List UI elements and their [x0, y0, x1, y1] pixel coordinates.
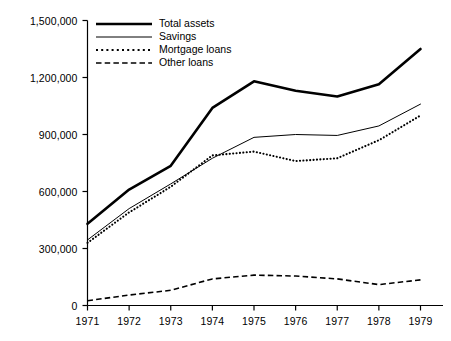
- legend-swatch-dashed: [96, 57, 152, 69]
- legend-label-total-assets: Total assets: [159, 17, 214, 30]
- y-axis-tick-label: 600,000: [0, 186, 78, 198]
- chart-legend: Total assets Savings Mortgage loans Othe…: [96, 17, 231, 69]
- y-axis-tick-label: 1,200,000: [0, 72, 78, 84]
- legend-swatch-solid-thick: [96, 18, 152, 30]
- legend-swatch-solid-thin: [96, 31, 152, 43]
- legend-label-other-loans: Other loans: [159, 56, 213, 69]
- legend-label-mortgage-loans: Mortgage loans: [159, 43, 231, 56]
- legend-item-mortgage-loans: Mortgage loans: [96, 43, 231, 56]
- legend-swatch-dotted: [96, 44, 152, 56]
- y-axis-tick-label: 300,000: [0, 243, 78, 255]
- y-axis-ticks: [83, 21, 88, 306]
- y-axis-tick-label: 0: [0, 300, 78, 312]
- x-axis-ticks: [88, 306, 421, 311]
- x-axis-tick-label: 1972: [117, 315, 141, 327]
- legend-item-total-assets: Total assets: [96, 17, 231, 30]
- series-line-total-assets: [88, 49, 421, 224]
- series-line-savings: [88, 104, 421, 240]
- legend-item-other-loans: Other loans: [96, 56, 231, 69]
- x-axis-tick-label: 1971: [76, 315, 100, 327]
- x-axis-tick-label: 1976: [284, 315, 308, 327]
- y-axis-tick-label: 900,000: [0, 129, 78, 141]
- x-axis-tick-label: 1977: [325, 315, 349, 327]
- legend-label-savings: Savings: [159, 30, 196, 43]
- series-line-other-loans: [88, 275, 421, 301]
- x-axis-tick-label: 1974: [200, 315, 224, 327]
- chart-container: 0300,000600,000900,0001,200,0001,500,000…: [0, 0, 451, 341]
- series-line-mortgage-loans: [88, 116, 421, 243]
- legend-item-savings: Savings: [96, 30, 231, 43]
- x-axis-tick-label: 1975: [242, 315, 266, 327]
- data-series-group: [88, 49, 421, 301]
- x-axis-tick-label: 1973: [159, 315, 183, 327]
- x-axis-tick-label: 1979: [409, 315, 433, 327]
- y-axis-tick-label: 1,500,000: [0, 15, 78, 27]
- x-axis-tick-label: 1978: [367, 315, 391, 327]
